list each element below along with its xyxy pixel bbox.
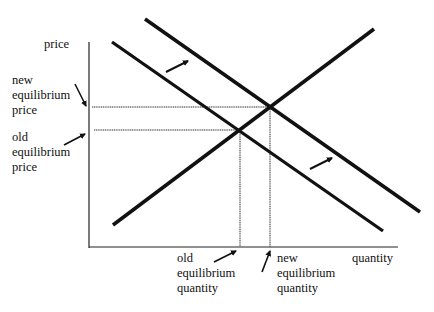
old-eq-price-label: old equilibrium price — [12, 130, 70, 175]
old-demand-curve — [112, 42, 383, 231]
label-line: equilibrium — [12, 145, 70, 160]
label-line: equilibrium — [12, 88, 70, 103]
label-line: new — [277, 251, 335, 266]
label-line: equilibrium — [177, 266, 235, 281]
new-eq-price-label: new equilibrium price — [12, 73, 70, 118]
label-line: old — [12, 130, 70, 145]
new-quantity-pointer-arrow-icon — [262, 251, 270, 272]
new-demand-curve — [145, 19, 420, 212]
label-line: quantity — [177, 281, 235, 296]
y-axis-label: price — [44, 37, 69, 52]
demand-shift-arrow-icon — [166, 61, 188, 72]
label-line: equilibrium — [277, 266, 335, 281]
demand-shift-arrow-icon — [310, 158, 332, 169]
old-eq-quantity-label: old equilibrium quantity — [177, 251, 235, 296]
x-axis-label: quantity — [352, 251, 393, 266]
label-line: old — [177, 251, 235, 266]
label-line: price — [12, 103, 70, 118]
label-line: new — [12, 73, 70, 88]
new-eq-quantity-label: new equilibrium quantity — [277, 251, 335, 296]
label-line: price — [12, 160, 70, 175]
label-line: quantity — [277, 281, 335, 296]
new-price-pointer-arrow-icon — [75, 84, 86, 106]
